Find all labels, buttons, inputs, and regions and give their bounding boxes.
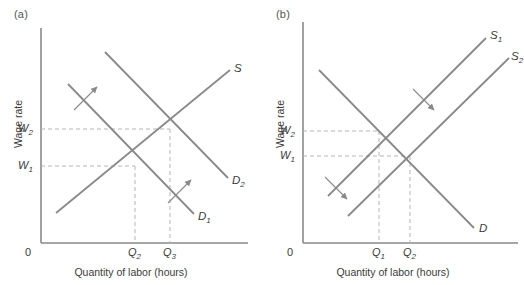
curve-demand bbox=[319, 70, 474, 228]
panel-b-curve-label-supply-1: S1 bbox=[490, 29, 502, 44]
curve-supply-1 bbox=[328, 38, 486, 196]
panel-b-xtick-q1: Q1 bbox=[372, 246, 385, 261]
panel-a-ytick-w1: W1 bbox=[18, 159, 33, 174]
arrow-demand-shift-upper bbox=[74, 87, 97, 110]
panel-b-ytick-w2: W2 bbox=[280, 124, 295, 139]
panel-a-x-axis-label: Quantity of labor (hours) bbox=[0, 266, 262, 278]
panel-b-origin-label: 0 bbox=[287, 246, 293, 258]
panel-b-curve-label-supply-2: S2 bbox=[511, 50, 523, 65]
panel-a-ytick-w2: W2 bbox=[18, 122, 33, 137]
panel-b-xtick-q2: Q2 bbox=[403, 246, 416, 261]
panel-b: (b) Wage bbox=[262, 0, 524, 285]
panel-a-plot bbox=[0, 0, 262, 285]
panel-b-x-axis-label: Quantity of labor (hours) bbox=[262, 266, 524, 278]
panel-a-curve-label-demand-2: D2 bbox=[232, 174, 245, 189]
panel-b-ytick-w1: W1 bbox=[280, 149, 295, 164]
panel-b-plot bbox=[262, 0, 524, 285]
panel-b-curve-label-demand: D bbox=[479, 222, 487, 237]
panel-a-xtick-q2: Q2 bbox=[128, 246, 141, 261]
panel-a: (a) Wage bbox=[0, 0, 262, 285]
curve-supply-2 bbox=[348, 58, 509, 216]
panel-a-curve-label-demand-1: D1 bbox=[198, 210, 211, 225]
labor-market-figure: (a) Wage bbox=[0, 0, 524, 285]
panel-a-curve-label-supply: S bbox=[234, 62, 242, 77]
panel-a-xtick-q3: Q3 bbox=[163, 246, 176, 261]
curve-demand-1 bbox=[68, 84, 194, 214]
panel-a-origin-label: 0 bbox=[25, 246, 31, 258]
curve-demand-2 bbox=[105, 52, 228, 178]
